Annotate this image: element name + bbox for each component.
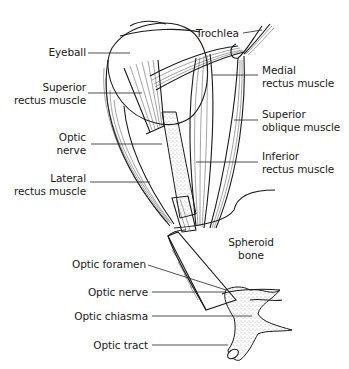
label-eyeball-text: Eyeball: [48, 46, 86, 58]
label-lateral-rectus: Lateral rectus muscle: [10, 172, 86, 198]
label-optic-nerve-lower: Optic nerve: [40, 286, 148, 299]
label-optic-chiasma: Optic chiasma: [40, 310, 148, 323]
label-optic-chiasma-text: Optic chiasma: [74, 310, 148, 322]
label-superior-rectus: Superior rectus muscle: [10, 81, 86, 107]
label-inferior-rectus-line2: rectus muscle: [262, 163, 334, 176]
label-superior-oblique-line1: Superior: [262, 108, 340, 121]
eyeball-shape: [108, 21, 208, 124]
label-medial-rectus: Medial rectus muscle: [262, 64, 334, 90]
label-trochlea-text: Trochlea: [196, 27, 239, 39]
label-spheroid-bone: Spheroid bone: [218, 236, 284, 262]
label-eyeball: Eyeball: [20, 46, 86, 59]
label-lateral-rectus-line1: Lateral: [10, 172, 86, 185]
label-optic-nerve-upper-line2: nerve: [20, 144, 86, 157]
label-medial-rectus-line1: Medial: [262, 64, 334, 77]
label-spheroid-bone-line1: Spheroid: [218, 236, 284, 249]
label-optic-foramen: Optic foramen: [40, 258, 146, 271]
label-optic-tract-text: Optic tract: [93, 339, 148, 351]
label-optic-nerve-upper-line1: Optic: [20, 131, 86, 144]
label-superior-rectus-line1: Superior: [10, 81, 86, 94]
optic-chiasma-shape: [222, 287, 292, 361]
label-trochlea: Trochlea: [196, 27, 239, 40]
label-superior-oblique: Superior oblique muscle: [262, 108, 340, 134]
label-superior-oblique-line2: oblique muscle: [262, 121, 340, 134]
label-superior-rectus-line2: rectus muscle: [10, 94, 86, 107]
label-optic-nerve-lower-text: Optic nerve: [88, 286, 148, 298]
label-medial-rectus-line2: rectus muscle: [262, 77, 334, 90]
eye-anatomy-diagram: Eyeball Superior rectus muscle Optic ner…: [0, 0, 349, 369]
label-optic-tract: Optic tract: [40, 339, 148, 352]
label-spheroid-bone-line2: bone: [218, 249, 284, 262]
label-lateral-rectus-line2: rectus muscle: [10, 185, 86, 198]
label-optic-foramen-text: Optic foramen: [72, 258, 146, 270]
label-inferior-rectus: Inferior rectus muscle: [262, 150, 334, 176]
label-optic-nerve-upper: Optic nerve: [20, 131, 86, 157]
label-inferior-rectus-line1: Inferior: [262, 150, 334, 163]
